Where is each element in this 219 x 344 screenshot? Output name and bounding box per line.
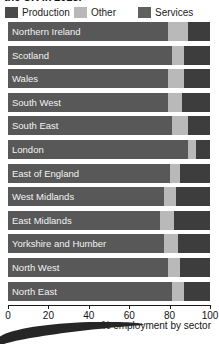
x-tick <box>48 305 49 309</box>
bar-segment-other <box>188 140 196 159</box>
bar-segment-production <box>184 282 210 301</box>
bar-segment-services <box>8 258 168 277</box>
bar-segment-production <box>176 187 210 206</box>
bar-row: North East <box>8 282 210 301</box>
bar-segment-other <box>168 258 180 277</box>
bar-segment-services <box>8 164 170 183</box>
bar-segment-other <box>168 69 184 88</box>
plot-area: Northern IrelandScotlandWalesSouth WestS… <box>8 22 210 305</box>
bar-segment-services <box>8 116 172 135</box>
bar-segment-production <box>188 116 210 135</box>
bar-row: West Midlands <box>8 187 210 206</box>
bar-segment-services <box>8 140 188 159</box>
x-tick <box>8 305 9 309</box>
x-tick <box>89 305 90 309</box>
bar-row: East of England <box>8 164 210 183</box>
x-tick <box>170 305 171 309</box>
bar-row: North West <box>8 258 210 277</box>
bar-segment-other <box>172 116 188 135</box>
legend-swatch-services <box>138 7 151 18</box>
bar-row: South East <box>8 116 210 135</box>
chart-legend: Production Other Services <box>5 6 217 19</box>
bar-segment-production <box>178 234 210 253</box>
x-tick <box>210 305 211 309</box>
chart-title: the UK in 2015. <box>4 0 216 3</box>
bar-row: London <box>8 140 210 159</box>
bar-row: Wales <box>8 69 210 88</box>
legend-swatch-other <box>74 7 87 18</box>
bar-segment-other <box>172 282 184 301</box>
x-tick <box>129 305 130 309</box>
bar-row: Yorkshire and Humber <box>8 234 210 253</box>
bar-row: Northern Ireland <box>8 22 210 41</box>
bar-segment-services <box>8 211 160 230</box>
legend-item-production: Production <box>5 6 70 19</box>
bar-segment-services <box>8 187 164 206</box>
bar-segment-other <box>168 22 188 41</box>
legend-swatch-production <box>5 7 18 18</box>
bar-segment-production <box>184 69 210 88</box>
x-axis-line <box>8 305 210 306</box>
bar-segment-other <box>160 211 174 230</box>
legend-label-production: Production <box>22 7 70 18</box>
legend-label-services: Services <box>155 7 193 18</box>
legend-item-services: Services <box>138 6 193 19</box>
bar-segment-other <box>170 164 180 183</box>
bar-segment-services <box>8 282 172 301</box>
bar-segment-production <box>184 46 210 65</box>
decorative-swoosh <box>0 322 144 344</box>
bar-segment-production <box>180 164 210 183</box>
bar-segment-production <box>174 211 210 230</box>
bar-segment-services <box>8 69 168 88</box>
bar-segment-other <box>168 93 182 112</box>
bar-segment-production <box>188 22 210 41</box>
bar-segment-production <box>182 93 210 112</box>
legend-label-other: Other <box>91 7 116 18</box>
bar-row: South West <box>8 93 210 112</box>
bar-segment-production <box>180 258 210 277</box>
bar-segment-services <box>8 234 164 253</box>
bar-row: Scotland <box>8 46 210 65</box>
bar-row: East Midlands <box>8 211 210 230</box>
bar-segment-services <box>8 22 168 41</box>
bar-segment-services <box>8 46 172 65</box>
bar-segment-other <box>164 187 176 206</box>
bar-segment-other <box>172 46 184 65</box>
swoosh-shape <box>0 322 144 344</box>
bar-segment-services <box>8 93 168 112</box>
bar-segment-other <box>164 234 178 253</box>
bar-segment-production <box>196 140 210 159</box>
legend-item-other: Other <box>74 6 116 19</box>
